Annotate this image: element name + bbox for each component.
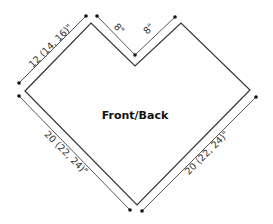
dimension-endpoint-dot (84, 14, 88, 18)
dimension-endpoint-dot (17, 94, 21, 98)
front-back-schematic: 12 (14, 16)" 8" 8" 20 (22, 24)" 20 (22, … (0, 0, 273, 224)
dimension-label-lower-right: 20 (22, 24)" (182, 128, 230, 176)
dimension-notch-right: 8" (133, 15, 177, 57)
dimension-endpoint-dot (254, 95, 258, 99)
dimension-label-upper-left: 12 (14, 16)" (26, 21, 74, 69)
dimension-label-lower-left: 20 (22, 24)" (42, 128, 90, 176)
dimension-endpoint-dot (140, 209, 144, 213)
dimension-notch-left: 8" (95, 14, 135, 55)
dimension-endpoint-dot (173, 15, 177, 19)
dimension-endpoint-dot (95, 14, 99, 18)
dimension-label-notch-right: 8" (141, 21, 156, 36)
dimension-endpoint-dot (17, 81, 21, 85)
dimension-upper-left: 12 (14, 16)" (17, 14, 88, 85)
dimension-endpoint-dot (133, 53, 137, 57)
dimension-endpoint-dot (128, 208, 132, 212)
piece-title: Front/Back (102, 109, 169, 122)
